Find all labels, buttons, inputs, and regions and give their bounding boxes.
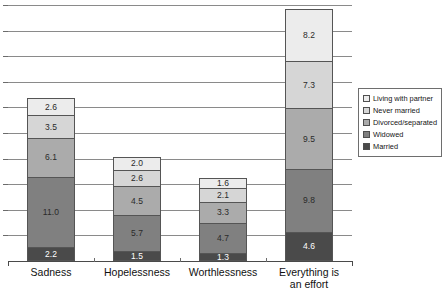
- bar-segment[interactable]: 11.0: [27, 177, 75, 247]
- legend-item[interactable]: Divorced/separated: [363, 117, 438, 128]
- legend-item[interactable]: Never married: [363, 105, 438, 116]
- bar-value-label: 4.7: [217, 234, 229, 243]
- bar-value-label: 11.0: [43, 208, 59, 217]
- bar-segment[interactable]: 7.3: [285, 61, 333, 108]
- y-axis-tick: [3, 159, 8, 160]
- bar-value-label: 1.5: [131, 252, 143, 261]
- y-axis-tick: [3, 82, 8, 83]
- bar-segment[interactable]: 1.3: [199, 253, 247, 261]
- legend-label: Widowed: [373, 131, 403, 139]
- y-axis-tick: [3, 56, 8, 57]
- plot-area: 2.63.56.111.02.22.02.64.55.71.51.62.13.3…: [8, 5, 352, 261]
- bar-value-label: 4.6: [303, 242, 315, 251]
- bar-value-label: 9.5: [303, 135, 315, 144]
- y-axis-tick: [3, 133, 8, 134]
- bar-segment[interactable]: 3.5: [27, 115, 75, 137]
- y-axis-tick: [3, 184, 8, 185]
- bar-segment[interactable]: 2.0: [113, 157, 161, 170]
- bar-segment[interactable]: 6.1: [27, 138, 75, 177]
- bar-value-label: 2.6: [131, 174, 143, 183]
- bar-segment[interactable]: 2.6: [27, 98, 75, 115]
- x-axis-divider: [180, 258, 181, 262]
- legend-swatch-icon: [363, 131, 370, 138]
- bar-value-label: 2.6: [45, 103, 57, 112]
- legend-item[interactable]: Living with partner: [363, 93, 438, 104]
- bar-value-label: 3.3: [217, 208, 229, 217]
- bar-segment[interactable]: 9.5: [285, 108, 333, 169]
- y-axis-tick: [3, 210, 8, 211]
- bar-value-label: 6.1: [45, 153, 57, 162]
- y-axis-tick: [3, 107, 8, 108]
- legend-item[interactable]: Married: [363, 141, 438, 152]
- legend-swatch-icon: [363, 143, 370, 150]
- bar-segment[interactable]: 3.3: [199, 202, 247, 223]
- bar-value-label: 8.2: [303, 31, 315, 40]
- y-axis-tick: [3, 235, 8, 236]
- legend-label: Never married: [373, 107, 420, 115]
- bar-segment[interactable]: 4.7: [199, 223, 247, 253]
- legend: Living with partnerNever marriedDivorced…: [358, 88, 442, 157]
- bar-segment[interactable]: 2.2: [27, 247, 75, 261]
- x-axis-divider: [266, 258, 267, 262]
- bar-value-label: 2.1: [217, 191, 229, 200]
- bar-group[interactable]: 2.63.56.111.02.2: [27, 98, 75, 261]
- bar-segment[interactable]: 4.6: [285, 232, 333, 261]
- stacked-bar-chart: 2.63.56.111.02.22.02.64.55.71.51.62.13.3…: [0, 0, 446, 294]
- bar-value-label: 2.2: [45, 250, 57, 259]
- x-axis-label-line: Everything is: [257, 266, 361, 278]
- bar-value-label: 5.7: [131, 229, 143, 238]
- bar-group[interactable]: 1.62.13.34.71.3: [199, 178, 247, 261]
- x-axis-divider: [94, 258, 95, 262]
- bar-segment[interactable]: 1.5: [113, 251, 161, 261]
- legend-label: Divorced/separated: [373, 119, 437, 127]
- bar-segment[interactable]: 9.8: [285, 169, 333, 232]
- bar-segment[interactable]: 2.6: [113, 170, 161, 187]
- gridline: [8, 5, 352, 6]
- bar-value-label: 2.0: [131, 159, 143, 168]
- legend-label: Married: [373, 143, 398, 151]
- x-axis-label-line: an effort: [257, 278, 361, 290]
- legend-swatch-icon: [363, 107, 370, 114]
- bar-segment[interactable]: 2.1: [199, 188, 247, 201]
- bar-segment[interactable]: 4.5: [113, 186, 161, 215]
- legend-item[interactable]: Widowed: [363, 129, 438, 140]
- legend-swatch-icon: [363, 119, 370, 126]
- y-axis-tick: [3, 5, 8, 6]
- bar-value-label: 4.5: [131, 197, 143, 206]
- bar-group[interactable]: 8.27.39.59.84.6: [285, 9, 333, 261]
- legend-label: Living with partner: [373, 95, 433, 103]
- x-axis-label: Everything isan effort: [257, 266, 361, 290]
- bar-value-label: 1.6: [217, 179, 229, 188]
- bar-value-label: 3.5: [45, 123, 57, 132]
- legend-swatch-icon: [363, 95, 370, 102]
- bar-value-label: 7.3: [303, 81, 315, 90]
- y-axis-tick: [3, 31, 8, 32]
- bar-segment[interactable]: 8.2: [285, 9, 333, 61]
- bar-segment[interactable]: 1.6: [199, 178, 247, 188]
- bar-value-label: 1.3: [217, 253, 229, 261]
- bar-value-label: 9.8: [303, 196, 315, 205]
- bar-group[interactable]: 2.02.64.55.71.5: [113, 157, 161, 261]
- bar-segment[interactable]: 5.7: [113, 215, 161, 251]
